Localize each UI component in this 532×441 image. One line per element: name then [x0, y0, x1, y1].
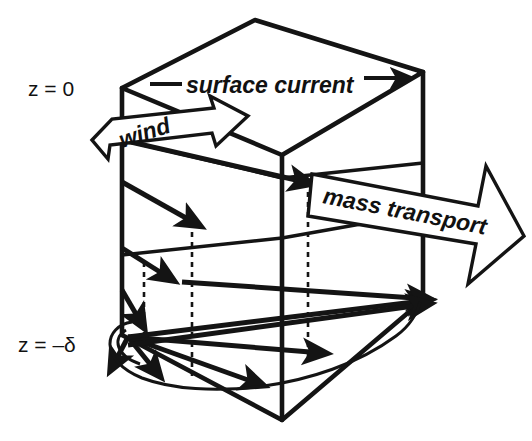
spiral-vector-8	[182, 282, 414, 298]
ekman-spiral-figure: surface current wind mass transport z = …	[0, 0, 532, 441]
spiral-vector-7	[128, 302, 414, 337]
surface-depth-label: z = 0	[28, 77, 74, 100]
ekman-spiral-canvas: surface current wind mass transport z = …	[0, 0, 532, 441]
spiral-vector-9	[128, 306, 414, 345]
cube-interior-seam-upper-right	[282, 163, 423, 178]
ekman-depth-label: z = –δ	[18, 333, 76, 356]
surface-current-label: surface current	[186, 72, 355, 98]
spiral-vector-0	[122, 182, 186, 218]
spiral-vector-10	[122, 140, 296, 180]
mass-transport-banner-arrow: mass transport	[308, 166, 524, 284]
cube-interior-seam-left	[122, 238, 282, 255]
surface-current-annotation: surface current	[150, 72, 396, 98]
